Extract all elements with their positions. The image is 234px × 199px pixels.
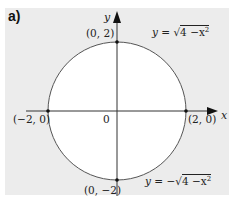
origin-label: 0 — [103, 113, 110, 125]
equation-lower: y = −√4 −x2 — [145, 174, 211, 187]
equation-upper-exponent: 2 — [205, 25, 209, 33]
equation-upper-radicand: 4 −x — [180, 26, 205, 38]
point-label-0-neg2: (0, −2) — [84, 184, 121, 196]
point-label-2-0: (2, 0) — [188, 113, 216, 125]
sqrt-icon: √ — [175, 175, 182, 187]
point-label-0-2: (0, 2) — [86, 27, 114, 39]
part-label: a) — [8, 8, 20, 24]
equation-lower-lhs: y = − — [145, 175, 175, 187]
equation-lower-radicand: 4 −x — [182, 175, 207, 187]
point-0-2 — [115, 40, 119, 44]
y-axis-arrow-icon — [113, 11, 121, 23]
equation-upper-lhs: y = — [152, 26, 173, 38]
y-axis-label: y — [104, 11, 110, 24]
x-axis-label: x — [221, 109, 227, 122]
equation-upper: y = √4 −x2 — [152, 25, 209, 38]
point-label-neg2-0: (−2, 0) — [13, 113, 50, 125]
point-0-neg2 — [115, 178, 119, 182]
equation-lower-exponent: 2 — [207, 174, 211, 182]
